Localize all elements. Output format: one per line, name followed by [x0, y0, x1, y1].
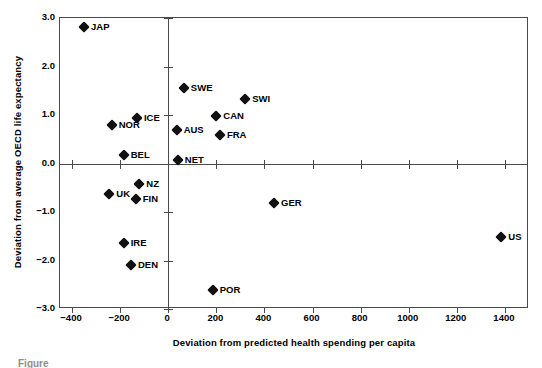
diamond-marker-icon	[130, 194, 141, 205]
x-tick-mark	[409, 160, 410, 169]
x-tick-label: 600	[287, 312, 337, 324]
x-tick-mark	[505, 160, 506, 169]
x-tick-mark	[216, 160, 217, 169]
x-tick-label: 1200	[431, 312, 481, 324]
data-point-label: SWI	[252, 93, 270, 104]
data-point-label: ICE	[144, 112, 160, 123]
data-point-label: FRA	[227, 129, 247, 140]
x-tick-label: 1400	[479, 312, 529, 324]
diamond-marker-icon	[268, 198, 279, 209]
x-tick-mark	[313, 160, 314, 169]
scatter-chart-figure: Deviation from average OECD life expecta…	[0, 0, 542, 368]
y-tick-mark	[164, 18, 173, 19]
diamond-marker-icon	[214, 130, 225, 141]
x-tick-label: 1000	[383, 312, 433, 324]
y-tick-mark	[164, 212, 173, 213]
y-axis-tick-labels: 3.02.01.00.0−1.0−2.0−3.0	[20, 17, 55, 308]
x-tick-mark	[264, 160, 265, 169]
data-point-label: BEL	[131, 149, 150, 160]
diamond-marker-icon	[125, 260, 136, 271]
data-point-label: POR	[220, 284, 241, 295]
x-tick-label: 200	[190, 312, 240, 324]
diamond-marker-icon	[211, 110, 222, 121]
diamond-marker-icon	[171, 124, 182, 135]
data-point-label: DEN	[138, 259, 158, 270]
data-point-label: US	[508, 231, 521, 242]
x-tick-mark	[72, 160, 73, 169]
diamond-marker-icon	[496, 232, 507, 243]
data-point-label: IRE	[131, 237, 147, 248]
y-tick-mark	[164, 261, 173, 262]
y-tick-mark	[164, 115, 173, 116]
y-tick-label: 0.0	[25, 158, 55, 168]
x-tick-label: 800	[335, 312, 385, 324]
data-point-label: JAP	[91, 21, 109, 32]
diamond-marker-icon	[240, 93, 251, 104]
data-point-label: SWE	[191, 82, 213, 93]
x-tick-mark	[361, 160, 362, 169]
figure-caption: Figure	[18, 358, 318, 368]
plot-area: JAPSWESWIICECANNORAUSFRABELNETNZUKFINGER…	[59, 17, 528, 308]
data-point-label: FIN	[143, 193, 158, 204]
x-tick-mark	[120, 160, 121, 169]
x-tick-label: 400	[238, 312, 288, 324]
data-point-label: UK	[116, 188, 130, 199]
diamond-marker-icon	[207, 284, 218, 295]
data-point-label: CAN	[223, 110, 244, 121]
x-tick-mark	[457, 160, 458, 169]
y-tick-label: −1.0	[25, 206, 55, 216]
diamond-marker-icon	[134, 179, 145, 190]
data-point-label: NET	[185, 154, 204, 165]
y-tick-mark	[164, 67, 173, 68]
y-tick-label: −2.0	[25, 255, 55, 265]
data-point-label: NZ	[146, 178, 159, 189]
diamond-marker-icon	[104, 188, 115, 199]
data-point-label: NOR	[119, 119, 140, 130]
diamond-marker-icon	[78, 21, 89, 32]
y-tick-label: 1.0	[25, 109, 55, 119]
x-axis-title: Deviation from predicted health spending…	[59, 337, 529, 348]
y-tick-label: 3.0	[25, 12, 55, 22]
x-axis-tick-labels: −400−2000200400600800100012001400	[59, 312, 528, 326]
diamond-marker-icon	[118, 237, 129, 248]
x-tick-label: −400	[46, 312, 96, 324]
y-tick-label: 2.0	[25, 61, 55, 71]
x-tick-label: 0	[142, 312, 192, 324]
diamond-marker-icon	[106, 119, 117, 130]
data-point-label: GER	[281, 197, 302, 208]
diamond-marker-icon	[178, 83, 189, 94]
x-tick-label: −200	[94, 312, 144, 324]
y-zero-axis-line	[168, 18, 169, 307]
data-point-label: AUS	[184, 124, 204, 135]
